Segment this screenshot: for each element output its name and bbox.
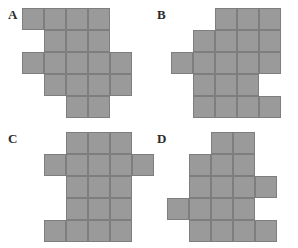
grid-cell [211, 154, 233, 176]
grid-cell [211, 132, 233, 154]
grid-cell [237, 30, 259, 52]
grid-cell [233, 198, 255, 220]
grid-cell [88, 74, 110, 96]
grid-cell [110, 154, 132, 176]
grid-cell [88, 176, 110, 198]
grid-cell [189, 220, 211, 242]
grid-cell [110, 74, 132, 96]
grid-cell [189, 198, 211, 220]
grid-cell [237, 96, 259, 118]
grid-cell [88, 8, 110, 30]
grid-cell [193, 30, 215, 52]
grid-cell [255, 220, 277, 242]
grid-cell [215, 8, 237, 30]
grid-cell [88, 220, 110, 242]
grid-cell [215, 96, 237, 118]
grid-cell [215, 30, 237, 52]
panel-d: D [149, 124, 298, 248]
panel-b: B [149, 0, 298, 124]
grid-cell [110, 132, 132, 154]
grid-cell [255, 176, 277, 198]
grid-cell [259, 8, 281, 30]
grid-cell [259, 52, 281, 74]
grid-cell [44, 8, 66, 30]
grid-cell [88, 96, 110, 118]
grid-cell [66, 8, 88, 30]
shape-d-grid [149, 124, 298, 248]
grid-cell [44, 154, 66, 176]
grid-cell [88, 52, 110, 74]
grid-cell [66, 198, 88, 220]
grid-cell [110, 198, 132, 220]
grid-cell [259, 96, 281, 118]
grid-cell [233, 220, 255, 242]
grid-cell [88, 30, 110, 52]
grid-cell [237, 52, 259, 74]
grid-cell [66, 52, 88, 74]
grid-cell [66, 154, 88, 176]
grid-cell [211, 198, 233, 220]
panel-c: C [0, 124, 149, 248]
grid-cell [110, 220, 132, 242]
grid-cell [88, 198, 110, 220]
grid-cell [66, 176, 88, 198]
grid-cell [167, 198, 189, 220]
grid-cell [211, 176, 233, 198]
shape-b-grid [149, 0, 298, 124]
grid-cell [66, 132, 88, 154]
grid-cell [189, 154, 211, 176]
grid-cell [22, 52, 44, 74]
grid-cell [44, 220, 66, 242]
grid-cell [88, 154, 110, 176]
grid-cell [215, 52, 237, 74]
grid-cell [66, 74, 88, 96]
grid-cell [193, 52, 215, 74]
grid-cell [110, 176, 132, 198]
grid-cell [237, 74, 259, 96]
panel-a: A [0, 0, 149, 124]
grid-cell [211, 220, 233, 242]
grid-cell [66, 30, 88, 52]
grid-cell [189, 176, 211, 198]
grid-cell [259, 30, 281, 52]
grid-cell [44, 30, 66, 52]
grid-cell [44, 74, 66, 96]
grid-cell [66, 220, 88, 242]
grid-cell [171, 52, 193, 74]
grid-cell [88, 132, 110, 154]
grid-cell [193, 74, 215, 96]
grid-cell [44, 52, 66, 74]
grid-cell [110, 52, 132, 74]
shape-c-grid [0, 124, 149, 248]
grid-cell [237, 8, 259, 30]
grid-cell [66, 96, 88, 118]
shape-a-grid [0, 0, 149, 124]
grid-cell [233, 176, 255, 198]
grid-cell [233, 132, 255, 154]
grid-cell [215, 74, 237, 96]
grid-cell [193, 96, 215, 118]
grid-cell [233, 154, 255, 176]
grid-cell [22, 8, 44, 30]
